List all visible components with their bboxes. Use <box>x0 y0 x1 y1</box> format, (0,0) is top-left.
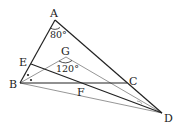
label-G: G <box>61 45 70 58</box>
label-C: C <box>129 75 137 88</box>
segment-ED <box>31 64 162 113</box>
main-lines <box>20 20 162 113</box>
segment-BD <box>20 83 162 113</box>
bisector-dot-upper <box>27 74 29 76</box>
geometry-diagram: A B C D E F G 80° 120° <box>0 0 178 128</box>
angle-label-G: 120° <box>56 63 79 74</box>
angle-label-A: 80° <box>50 29 67 40</box>
label-E: E <box>19 56 27 69</box>
label-D: D <box>164 112 173 125</box>
label-F: F <box>77 86 85 99</box>
segment-GD <box>66 57 162 113</box>
label-B: B <box>9 78 17 91</box>
label-A: A <box>49 7 59 20</box>
bisector-dot-lower <box>30 79 32 81</box>
